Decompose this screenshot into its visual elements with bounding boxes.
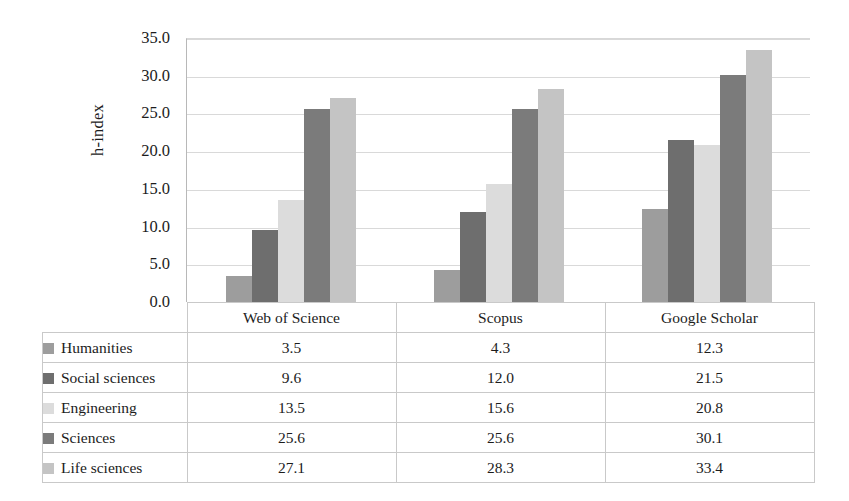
bar <box>434 270 460 302</box>
bar <box>304 109 330 302</box>
legend-label: Sciences <box>61 429 115 446</box>
bar <box>668 140 694 302</box>
legend-swatch-icon <box>43 373 54 384</box>
table-cell-value: 28.3 <box>396 453 605 483</box>
table-cell-value: 27.1 <box>187 453 396 483</box>
table-cell-value: 15.6 <box>396 393 605 423</box>
bar <box>460 212 486 303</box>
table-cell-value: 25.6 <box>187 423 396 453</box>
legend-label: Humanities <box>61 339 132 356</box>
y-axis-tick-labels: 35.030.025.020.015.010.05.00.0 <box>110 38 178 302</box>
bar <box>746 50 772 302</box>
y-axis-title: h-index <box>88 80 108 180</box>
y-tick-label: 30.0 <box>141 67 170 84</box>
table-row: Social sciences9.612.021.5 <box>43 363 815 393</box>
table-row: Engineering13.515.620.8 <box>43 393 815 423</box>
table-row: Life sciences27.128.333.4 <box>43 453 815 483</box>
bar <box>720 75 746 302</box>
bar-chart-figure: h-index 35.030.025.020.015.010.05.00.0 W… <box>0 0 849 501</box>
y-tick-label: 25.0 <box>141 105 170 122</box>
legend-swatch-icon <box>43 433 54 444</box>
bar <box>226 276 252 302</box>
plot-area <box>186 38 810 302</box>
bar-group <box>603 39 811 302</box>
table-column-header: Google Scholar <box>605 303 814 333</box>
bar <box>252 230 278 302</box>
table-cell-value: 3.5 <box>187 333 396 363</box>
y-tick-label: 5.0 <box>149 256 170 273</box>
bar-group <box>187 39 395 302</box>
legend-label: Social sciences <box>61 369 155 386</box>
table-cell-value: 30.1 <box>605 423 814 453</box>
y-tick-label: 15.0 <box>141 181 170 198</box>
bar <box>642 209 668 302</box>
table-cell-value: 25.6 <box>396 423 605 453</box>
table-cell-value: 13.5 <box>187 393 396 423</box>
bar <box>694 145 720 302</box>
table-header-row: Web of ScienceScopusGoogle Scholar <box>43 303 815 333</box>
table-cell-value: 12.0 <box>396 363 605 393</box>
table-cell-value: 9.6 <box>187 363 396 393</box>
legend-swatch-icon <box>43 343 54 354</box>
legend-item-humanities: Humanities <box>43 333 188 363</box>
legend-label: Engineering <box>61 399 137 416</box>
legend-item-social-sciences: Social sciences <box>43 363 188 393</box>
table-column-header: Scopus <box>396 303 605 333</box>
bar <box>512 109 538 302</box>
table-cell-value: 20.8 <box>605 393 814 423</box>
data-table: Web of ScienceScopusGoogle ScholarHumani… <box>42 302 815 483</box>
y-tick-label: 20.0 <box>141 143 170 160</box>
bar <box>330 98 356 302</box>
table-header-blank <box>43 303 188 333</box>
y-tick-label: 35.0 <box>141 30 170 47</box>
table-row: Sciences25.625.630.1 <box>43 423 815 453</box>
legend-item-sciences: Sciences <box>43 423 188 453</box>
y-tick-label: 10.0 <box>141 218 170 235</box>
legend-item-life-sciences: Life sciences <box>43 453 188 483</box>
bar <box>278 200 304 302</box>
legend-swatch-icon <box>43 403 54 414</box>
legend-swatch-icon <box>43 463 54 474</box>
table-cell-value: 4.3 <box>396 333 605 363</box>
legend-item-engineering: Engineering <box>43 393 188 423</box>
table-cell-value: 12.3 <box>605 333 814 363</box>
bars-layer <box>187 39 810 302</box>
bar <box>486 184 512 302</box>
legend-label: Life sciences <box>61 459 142 476</box>
table-column-header: Web of Science <box>187 303 396 333</box>
table-cell-value: 21.5 <box>605 363 814 393</box>
bar-group <box>395 39 603 302</box>
table-cell-value: 33.4 <box>605 453 814 483</box>
bar <box>538 89 564 302</box>
table-row: Humanities3.54.312.3 <box>43 333 815 363</box>
